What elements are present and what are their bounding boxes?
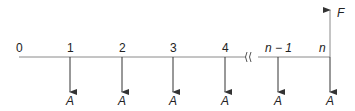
payment-label: A <box>273 94 282 108</box>
cash-flow-diagram: 0 1 2 3 4 n − 1 n A A A A A A F <box>0 0 355 111</box>
payment-label: A <box>325 94 334 108</box>
period-label-n: n <box>319 41 326 55</box>
period-label-1: 1 <box>67 41 74 55</box>
period-label-n-minus-1: n − 1 <box>265 41 292 55</box>
payment-label: A <box>117 94 126 108</box>
period-label-2: 2 <box>119 41 126 55</box>
future-value-label: F <box>337 6 345 20</box>
payment-label: A <box>220 94 229 108</box>
payment-label: A <box>65 94 74 108</box>
axis-break-icon <box>246 52 252 62</box>
period-label-3: 3 <box>170 41 177 55</box>
payment-label: A <box>168 94 177 108</box>
period-label-4: 4 <box>222 41 229 55</box>
period-label-0: 0 <box>16 41 23 55</box>
